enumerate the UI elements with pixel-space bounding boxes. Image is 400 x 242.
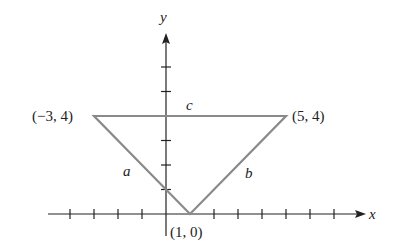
vertex-label-bottom: (1, 0) [170,224,203,241]
side-label-c: c [186,97,193,113]
vertex-label-right: (5, 4) [292,108,325,125]
y-axis [161,40,171,236]
coordinate-diagram: y x (−3, 4) (5, 4) (1, 0) c a b [0,0,400,242]
x-axis [48,209,358,219]
x-axis-label: x [368,206,376,222]
y-axis-label: y [158,9,167,25]
side-label-b: b [245,165,253,181]
vertex-label-left: (−3, 4) [32,108,73,125]
side-label-a: a [123,163,131,179]
